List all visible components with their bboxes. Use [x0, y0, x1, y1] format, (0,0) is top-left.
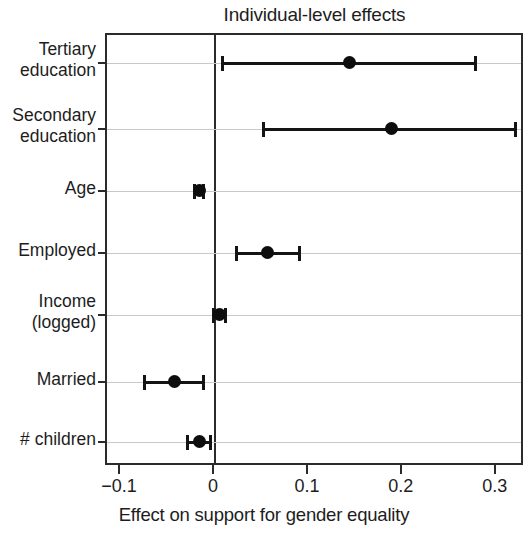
ci-lower-cap — [143, 375, 146, 390]
y-axis-label-children: # children — [0, 429, 96, 450]
estimate-row — [107, 55, 521, 71]
x-axis-tick — [494, 465, 496, 474]
y-axis-label-tertiary-education: Tertiaryeducation — [0, 39, 96, 81]
estimate-point — [261, 246, 274, 259]
estimate-row — [107, 374, 521, 390]
y-axis-tick — [98, 252, 107, 254]
y-axis-tick — [98, 314, 107, 316]
y-axis-label-secondary-education: Secondaryeducation — [0, 105, 96, 147]
estimate-row — [107, 245, 521, 261]
y-axis-tick — [98, 190, 107, 192]
y-axis-label-line: Age — [0, 178, 96, 199]
estimate-row — [107, 307, 521, 323]
estimate-row — [107, 183, 521, 199]
y-axis-label-employed: Employed — [0, 240, 96, 261]
x-axis-tick — [400, 465, 402, 474]
x-axis-tick-label: 0.3 — [482, 475, 507, 497]
y-axis-tick — [98, 62, 107, 64]
ci-lower-cap — [235, 246, 238, 261]
y-axis-label-line: education — [0, 60, 96, 81]
x-axis-tick-label: 0.1 — [294, 475, 319, 497]
y-axis-tick — [98, 381, 107, 383]
y-axis-label-line: Secondary — [0, 105, 96, 126]
y-axis-label-line: # children — [0, 429, 96, 450]
x-axis-tick-label: 0.2 — [388, 475, 413, 497]
ci-upper-cap — [298, 246, 301, 261]
ci-upper-cap — [514, 122, 517, 137]
ci-lower-cap — [221, 56, 224, 71]
chart-title: Individual-level effects — [105, 2, 524, 28]
estimate-row — [107, 121, 521, 137]
estimate-point — [343, 56, 356, 69]
y-axis-tick — [98, 441, 107, 443]
estimate-point — [193, 184, 206, 197]
ci-lower-cap — [186, 435, 189, 450]
ci-lower-cap — [262, 122, 265, 137]
estimate-row — [107, 434, 521, 450]
y-axis-label-line: Tertiary — [0, 39, 96, 60]
x-axis-tick-label: −0.1 — [101, 475, 137, 497]
coefficient-plot-figure: Individual-level effects Effect on suppo… — [0, 0, 528, 536]
y-axis-label-married: Married — [0, 369, 96, 390]
y-axis-tick — [98, 128, 107, 130]
y-axis-label-line: Married — [0, 369, 96, 390]
y-axis-label-age: Age — [0, 178, 96, 199]
x-axis-tick — [306, 465, 308, 474]
x-axis-tick — [212, 465, 214, 474]
y-axis-label-income-logged: Income(logged) — [0, 291, 96, 333]
x-axis-tick-label: 0 — [208, 475, 218, 497]
plot-area — [105, 33, 523, 465]
x-axis-tick — [118, 465, 120, 474]
estimate-point — [193, 435, 206, 448]
y-axis-label-line: (logged) — [0, 312, 96, 333]
y-axis-label-line: Employed — [0, 240, 96, 261]
estimate-point — [385, 122, 398, 135]
ci-upper-cap — [209, 435, 212, 450]
ci-upper-cap — [202, 375, 205, 390]
estimate-point — [168, 375, 181, 388]
x-axis-title: Effect on support for gender equality — [0, 503, 528, 527]
y-axis-label-line: education — [0, 126, 96, 147]
ci-upper-cap — [474, 56, 477, 71]
y-axis-label-line: Income — [0, 291, 96, 312]
